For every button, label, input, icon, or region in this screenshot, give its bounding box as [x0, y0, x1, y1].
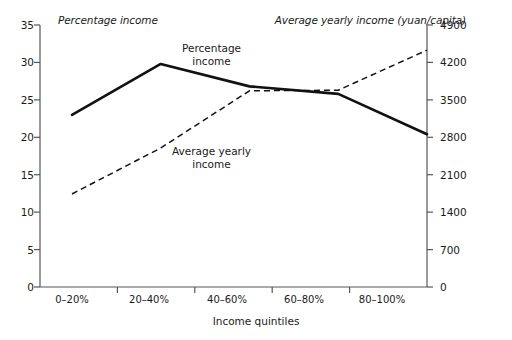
chart-plot-area: [0, 0, 512, 340]
axis-lines: [40, 25, 427, 287]
right-axis-ticks: [427, 25, 433, 287]
x-axis-ticks: [117, 287, 349, 293]
series-line-average-yearly-income: [72, 50, 427, 194]
chart-figure: Percentage income Average yearly income …: [0, 0, 512, 340]
left-axis-ticks: [34, 25, 40, 287]
